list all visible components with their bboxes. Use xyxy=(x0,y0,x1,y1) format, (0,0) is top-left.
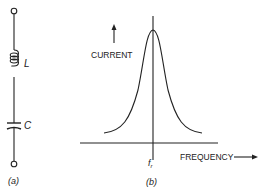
resonant-frequency-subscript: r xyxy=(151,163,154,169)
series-lc-circuit xyxy=(7,8,21,167)
top-terminal xyxy=(11,8,17,14)
inductor-label: L xyxy=(24,58,30,69)
frequency-arrow-head xyxy=(252,155,258,160)
caption-a: (a) xyxy=(8,176,19,186)
bottom-terminal xyxy=(11,161,17,167)
x-axis-label: FREQUENCY xyxy=(180,152,234,162)
resonance-diagram: L C (a) CURRENT FREQUENCY fr (b) xyxy=(0,0,262,190)
y-axis-label: CURRENT xyxy=(91,50,133,60)
caption-b: (b) xyxy=(146,177,157,187)
capacitor-label: C xyxy=(24,120,32,131)
current-arrow-head xyxy=(112,24,117,30)
inductor-coil xyxy=(10,50,18,66)
resonance-plot xyxy=(80,16,253,160)
